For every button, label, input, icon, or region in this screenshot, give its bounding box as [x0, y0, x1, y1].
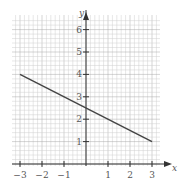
line-chart: xy−3−2−1123123456 — [0, 0, 178, 186]
x-tick-label: −1 — [57, 170, 70, 180]
y-tick-label: 4 — [76, 69, 82, 79]
x-tick-label: 1 — [105, 170, 111, 180]
y-tick-label: 3 — [76, 92, 82, 102]
y-tick-label: 6 — [76, 25, 82, 35]
x-tick-label: −2 — [35, 170, 48, 180]
tick-labels: xy−3−2−1123123456 — [13, 8, 177, 180]
x-tick-label: 2 — [127, 170, 133, 180]
x-tick-label: 3 — [149, 170, 155, 180]
x-axis-label: x — [172, 163, 177, 173]
y-tick-label: 2 — [76, 114, 82, 124]
y-tick-label: 1 — [76, 137, 82, 147]
x-tick-label: −3 — [13, 170, 27, 180]
axes — [12, 10, 172, 167]
y-tick-label: 5 — [76, 47, 82, 57]
y-axis-label: y — [78, 8, 85, 18]
x-axis-arrow-icon — [164, 161, 172, 167]
